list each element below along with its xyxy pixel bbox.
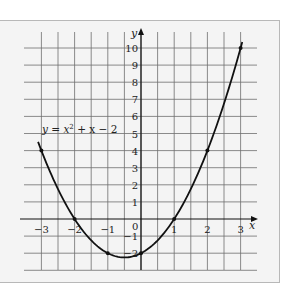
x-axis-label: x — [249, 219, 256, 232]
data-point — [239, 46, 243, 50]
data-point — [205, 149, 209, 153]
x-tick-label: 2 — [204, 224, 210, 235]
data-point — [39, 149, 43, 153]
y-tick-label: 9 — [132, 60, 138, 71]
chart-stage: −3−2−112310987654321−1−2 y = x2 + x − 2 … — [0, 0, 286, 286]
data-point — [73, 217, 77, 221]
y-tick-label: 10 — [125, 43, 138, 54]
x-tick-label: 1 — [171, 224, 177, 235]
y-tick-label: 7 — [132, 94, 138, 105]
equation-label: y = x2 + x − 2 — [41, 123, 117, 135]
axes — [20, 28, 258, 270]
data-point — [106, 251, 110, 255]
y-axis-arrow-icon — [138, 28, 144, 35]
x-tick-label: −3 — [34, 224, 49, 235]
y-tick-label: 2 — [132, 180, 138, 191]
y-tick-label: 5 — [132, 129, 138, 140]
y-tick-label: 8 — [132, 77, 138, 88]
y-tick-label: 6 — [132, 111, 138, 122]
origin-label: 0 — [132, 221, 138, 232]
tick-labels: −3−2−112310987654321−1−2 — [34, 43, 244, 259]
y-tick-label: 3 — [132, 163, 138, 174]
y-tick-label: 1 — [132, 197, 138, 208]
y-axis-label: y — [130, 27, 138, 40]
x-tick-label: −1 — [100, 224, 115, 235]
data-point — [139, 251, 143, 255]
data-point — [172, 217, 176, 221]
y-tick-label: 4 — [132, 146, 138, 157]
y-tick-label: −1 — [123, 231, 138, 242]
parabola-plot: −3−2−112310987654321−1−2 y = x2 + x − 2 … — [0, 0, 286, 286]
x-tick-label: 3 — [237, 224, 243, 235]
